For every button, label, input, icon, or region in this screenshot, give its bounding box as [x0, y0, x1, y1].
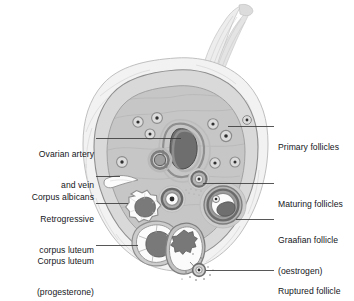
label-line-1: Graafian follicle: [278, 235, 354, 245]
label-corpus-luteum-progesterone: Corpus luteum (progesterone): [2, 235, 94, 301]
maturing-follicle: [159, 186, 186, 213]
label-line-1: Ovarian artery: [2, 149, 94, 159]
label-line-2: (progesterone): [2, 287, 94, 297]
primary-follicle: [117, 157, 128, 168]
primary-follicle: [243, 116, 252, 125]
primary-follicle: [208, 119, 219, 130]
label-line-1: Primary follicles: [278, 142, 354, 152]
maturing-follicle: [188, 168, 209, 189]
primary-follicle: [230, 157, 240, 167]
primary-follicle: [133, 117, 143, 127]
primary-follicle: [220, 130, 231, 141]
graafian-follicle: [200, 182, 246, 228]
label-primary-follicles: Primary follicles: [278, 121, 354, 173]
label-ruptured-follicle: Ruptured follicle: [278, 265, 354, 301]
primary-follicle: [145, 129, 155, 139]
label-line-1: Corpus luteum: [2, 256, 94, 266]
primary-follicle: [152, 113, 163, 124]
label-line-1: Ruptured follicle: [278, 286, 354, 296]
primary-follicle: [210, 158, 220, 168]
label-line-1: Retrogressive: [2, 214, 94, 224]
label-line-1: Maturing follicles: [278, 199, 354, 209]
